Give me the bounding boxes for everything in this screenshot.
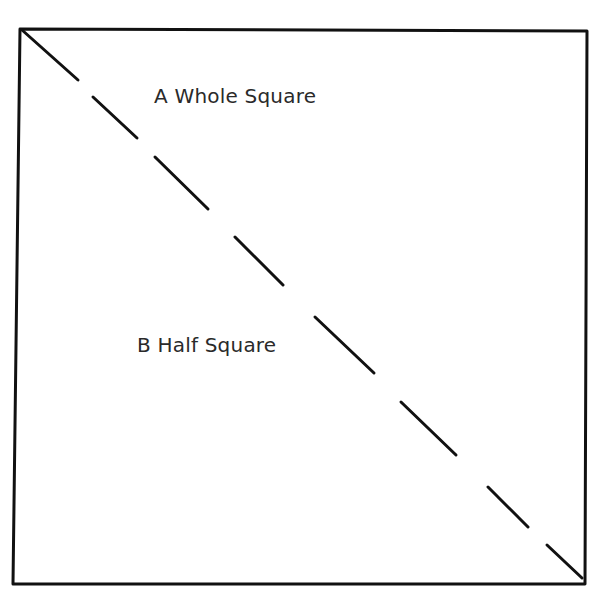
diagonal-dash-segment xyxy=(235,237,283,285)
diagram-canvas: A Whole Square B Half Square xyxy=(0,0,604,601)
diagonal-dash-segment xyxy=(488,487,528,527)
label-half-square: B Half Square xyxy=(137,333,276,357)
diagonal-dashed-line xyxy=(22,30,582,578)
diagonal-dash-segment xyxy=(315,317,374,373)
label-whole-square: A Whole Square xyxy=(154,84,316,108)
diagonal-dash-segment xyxy=(155,157,208,209)
diagonal-dash-segment xyxy=(547,545,582,578)
diagonal-dash-segment xyxy=(401,402,456,455)
diagonal-dash-segment xyxy=(22,30,78,80)
diagonal-dash-segment xyxy=(93,97,137,138)
